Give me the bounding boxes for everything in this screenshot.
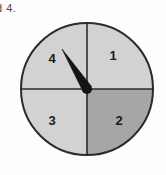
spinner-sector-label-1: 1 (109, 48, 116, 63)
spinner-sector-label-2: 2 (115, 113, 122, 128)
spinner-sector-label-4: 4 (48, 51, 56, 66)
spinner-sector-label-3: 3 (48, 113, 55, 128)
spinner-page: d 4. 1 2 3 4 (0, 0, 166, 175)
spinner-diagram: 1 2 3 4 (0, 0, 166, 175)
spinner-center-hub (82, 84, 92, 94)
